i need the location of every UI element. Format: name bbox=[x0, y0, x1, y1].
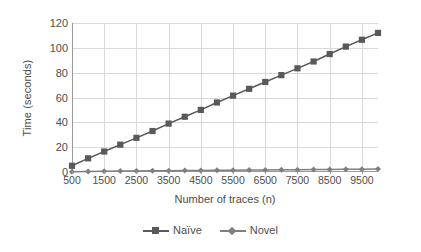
y-tick-label: 60 bbox=[28, 92, 68, 104]
data-point-square bbox=[182, 114, 188, 120]
x-tick-mark bbox=[104, 171, 105, 174]
data-point-square bbox=[278, 72, 284, 78]
data-point-square bbox=[262, 79, 268, 85]
y-tick-label: 40 bbox=[28, 116, 68, 128]
data-point-diamond bbox=[375, 166, 381, 172]
x-tick-mark bbox=[169, 171, 170, 174]
data-point-diamond bbox=[311, 167, 317, 173]
series-layer bbox=[72, 23, 378, 172]
data-point-square bbox=[149, 128, 155, 134]
y-axis-tick-labels: 020406080100120 bbox=[28, 16, 68, 172]
data-point-square bbox=[327, 51, 333, 57]
data-point-square bbox=[359, 37, 365, 43]
x-tick-mark bbox=[136, 171, 137, 174]
chart-container: Time (seconds) 020406080100120 500150025… bbox=[0, 0, 421, 252]
data-point-square bbox=[246, 86, 252, 92]
x-tick-mark bbox=[297, 171, 298, 174]
x-axis-title: Number of traces (n) bbox=[72, 193, 378, 205]
data-point-square bbox=[310, 58, 316, 64]
data-point-square bbox=[85, 155, 91, 161]
data-point-square bbox=[294, 65, 300, 71]
legend-label-naive: Naïve bbox=[173, 225, 202, 236]
legend-item-naive[interactable]: Naïve bbox=[143, 225, 202, 236]
data-point-square bbox=[198, 107, 204, 113]
data-point-diamond bbox=[278, 167, 284, 173]
y-tick-label: 100 bbox=[28, 42, 68, 54]
x-axis-tick-labels: 500150025003500450055006500750085009500 bbox=[72, 174, 378, 190]
data-point-square bbox=[230, 93, 236, 99]
data-point-square bbox=[133, 135, 139, 141]
naive-marker-icon bbox=[143, 225, 169, 236]
y-tick-label: 80 bbox=[28, 67, 68, 79]
data-point-diamond bbox=[214, 167, 220, 173]
data-point-square bbox=[343, 43, 349, 49]
x-tick-mark bbox=[362, 171, 363, 174]
data-point-diamond bbox=[182, 168, 188, 174]
x-tick-mark bbox=[330, 171, 331, 174]
y-tick-label: 120 bbox=[28, 17, 68, 29]
data-point-diamond bbox=[150, 168, 156, 174]
x-tick-mark bbox=[233, 171, 234, 174]
data-point-diamond bbox=[343, 166, 349, 172]
x-tick-mark bbox=[265, 171, 266, 174]
data-point-diamond bbox=[246, 167, 252, 173]
novel-marker-icon bbox=[220, 225, 246, 236]
y-tick-label: 20 bbox=[28, 141, 68, 153]
x-tick-mark bbox=[201, 171, 202, 174]
x-tick-mark bbox=[72, 171, 73, 174]
x-tick-label: 9500 bbox=[339, 174, 385, 186]
data-point-square bbox=[166, 120, 172, 126]
data-point-square bbox=[69, 163, 75, 169]
legend-item-novel[interactable]: Novel bbox=[220, 225, 278, 236]
series-nave bbox=[69, 30, 381, 169]
data-point-square bbox=[101, 148, 107, 154]
chart-legend: Naïve Novel bbox=[0, 225, 421, 236]
legend-label-novel: Novel bbox=[250, 225, 278, 236]
data-point-square bbox=[117, 142, 123, 148]
data-point-square bbox=[214, 99, 220, 105]
data-point-square bbox=[375, 30, 381, 36]
plot-area bbox=[72, 23, 378, 172]
